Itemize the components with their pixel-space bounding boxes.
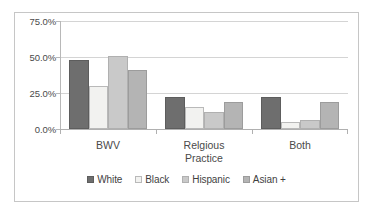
- y-tick-label-75: 75.0%: [12, 16, 56, 27]
- legend-item-asian[interactable]: Asian +: [243, 174, 286, 185]
- legend-swatch-icon: [135, 176, 142, 183]
- category-label-line1: BWV: [60, 139, 156, 152]
- bar-bwv-hispanic: [108, 56, 128, 129]
- bar-both-hispanic: [300, 120, 320, 129]
- y-axis-labels: 75.0% 50.0% 25.0% 0.0%: [12, 21, 56, 129]
- category-label-line1: Relgious: [156, 139, 252, 152]
- legend-swatch-icon: [243, 176, 250, 183]
- legend-swatch-icon: [182, 176, 189, 183]
- x-axis-tick-3: [347, 129, 348, 134]
- bar-relgious-practice-black: [185, 107, 205, 129]
- bar-relgious-practice-white: [165, 97, 185, 129]
- legend-item-hispanic[interactable]: Hispanic: [182, 174, 230, 185]
- bar-bwv-asian: [128, 70, 148, 129]
- category-label-religious-practice: Relgious Practice: [156, 139, 252, 164]
- legend-item-label: Hispanic: [192, 174, 230, 185]
- x-axis-tick-1: [156, 129, 157, 134]
- bar-bwv-black: [89, 86, 109, 129]
- bar-bwv-white: [69, 60, 89, 129]
- bar-both-black: [281, 122, 301, 129]
- chart-frame: 75.0% 50.0% 25.0% 0.0% BWV Relgious Prac…: [14, 12, 359, 202]
- y-tick-label-0: 0.0%: [12, 124, 56, 135]
- bar-both-asian: [320, 102, 340, 129]
- chart-legend: White Black Hispanic Asian +: [15, 174, 358, 185]
- bars-layer: [60, 21, 348, 129]
- legend-item-white[interactable]: White: [87, 174, 122, 185]
- legend-item-label: White: [97, 174, 122, 185]
- category-label-line1: Both: [252, 139, 348, 152]
- bar-both-white: [261, 97, 281, 129]
- legend-swatch-icon: [87, 176, 94, 183]
- y-tick-label-50: 50.0%: [12, 52, 56, 63]
- category-label-bwv: BWV: [60, 139, 156, 152]
- legend-item-label: Asian +: [253, 174, 286, 185]
- category-labels: BWV Relgious Practice Both: [60, 139, 348, 179]
- legend-item-black[interactable]: Black: [135, 174, 169, 185]
- legend-item-label: Black: [145, 174, 169, 185]
- bar-relgious-practice-asian: [224, 102, 244, 129]
- plot-area: 75.0% 50.0% 25.0% 0.0%: [60, 21, 348, 137]
- category-label-line2: Practice: [156, 152, 252, 165]
- x-axis-tick-0: [60, 129, 61, 134]
- category-label-both: Both: [252, 139, 348, 152]
- y-tick-label-25: 25.0%: [12, 88, 56, 99]
- bar-relgious-practice-hispanic: [204, 112, 224, 129]
- x-axis-line: [60, 129, 348, 130]
- x-axis-tick-2: [252, 129, 253, 134]
